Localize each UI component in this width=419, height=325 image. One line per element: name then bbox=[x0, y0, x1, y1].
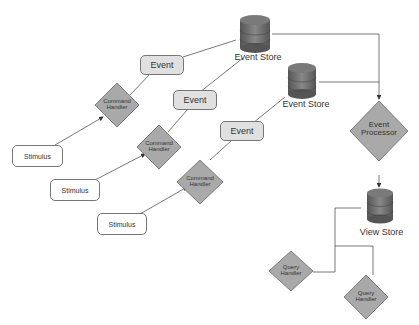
stimulus-box-3[interactable]: Stimulus bbox=[97, 213, 147, 235]
command-handler-label-1: CommandHandler bbox=[97, 98, 137, 111]
event-box-1[interactable]: Event bbox=[140, 55, 184, 75]
event-box-3[interactable]: Event bbox=[220, 121, 264, 141]
event-processor-label: EventProcessor bbox=[354, 121, 404, 138]
query-handler-label-1: QueryHandler bbox=[273, 264, 309, 277]
view-store-label: View Store bbox=[354, 228, 409, 237]
event-store-label-1: Event Store bbox=[228, 53, 288, 62]
event-store-label-2: Event Store bbox=[276, 100, 336, 109]
diagram-canvas: Event Store Event Store View Store Event… bbox=[0, 0, 419, 325]
event-store-cylinder-1[interactable] bbox=[240, 15, 270, 53]
query-handler-label-2: QueryHandler bbox=[348, 290, 384, 303]
stimulus-box-2[interactable]: Stimulus bbox=[50, 179, 100, 201]
event-store-cylinder-2[interactable] bbox=[288, 63, 316, 99]
view-store-cylinder[interactable] bbox=[367, 189, 393, 224]
event-box-2[interactable]: Event bbox=[173, 90, 217, 110]
command-handler-label-3: CommandHandler bbox=[180, 175, 220, 188]
stimulus-box-1[interactable]: Stimulus bbox=[12, 145, 63, 167]
command-handler-label-2: CommandHandler bbox=[139, 140, 179, 153]
